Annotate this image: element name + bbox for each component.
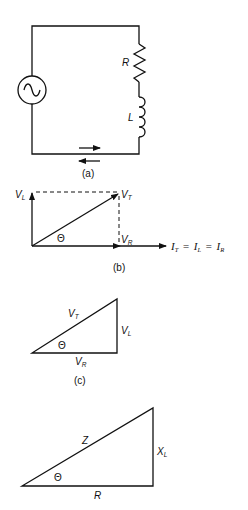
z-side-label: Z <box>81 435 89 446</box>
vl-side-label: VL <box>121 325 132 337</box>
inductor-label: L <box>128 112 134 123</box>
caption-b: (b) <box>113 262 125 273</box>
resistor-icon <box>134 44 145 82</box>
vr-label: VR <box>121 234 133 246</box>
current-equality-label: IT=IL=IR <box>170 240 224 253</box>
vl-label: VL <box>15 189 26 201</box>
inductor-icon <box>139 97 145 137</box>
impedance-triangle: Z XL R Θ <box>22 408 168 501</box>
resistor-label: R <box>122 57 129 68</box>
theta-label: Θ <box>57 233 65 244</box>
ac-source-icon <box>18 76 46 104</box>
phasor-diagram: VL VT VR Θ IT=IL=IR (b) <box>15 189 224 273</box>
wire-left-top <box>32 26 139 76</box>
impedance-triangle-shape <box>22 408 153 486</box>
voltage-triangle: VT VL VR Θ (c) <box>32 299 132 386</box>
xl-side-label: XL <box>156 446 168 458</box>
vt-side-label: VT <box>68 308 80 320</box>
caption-c: (c) <box>74 375 86 386</box>
circuit-diagram: R L (a) <box>18 26 145 179</box>
vt-label: VT <box>121 189 133 201</box>
vr-side-label: VR <box>75 356 87 368</box>
wire-left-bottom <box>32 104 139 154</box>
r-side-label: R <box>94 490 101 501</box>
theta-label-d: Θ <box>54 472 62 483</box>
theta-label-c: Θ <box>58 340 66 351</box>
caption-a: (a) <box>82 168 94 179</box>
vt-vector <box>32 194 118 246</box>
rl-circuit-figure: R L (a) VL VT VR Θ IT=IL=IR (b) VT VL VR… <box>0 0 248 510</box>
